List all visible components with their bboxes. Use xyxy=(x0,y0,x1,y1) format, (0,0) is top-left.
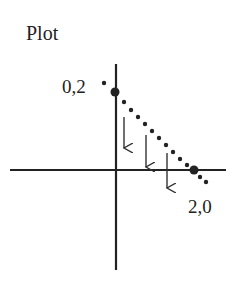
down-arrows xyxy=(124,117,167,188)
plot-canvas xyxy=(0,0,248,290)
point-end xyxy=(190,166,199,175)
point-start xyxy=(111,88,120,97)
plot-diagram: Plot 0,2 2,0 xyxy=(0,0,248,290)
